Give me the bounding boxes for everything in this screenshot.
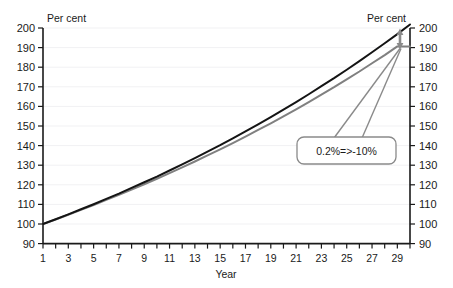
y-axis-left-title: Per cent: [47, 12, 86, 24]
y-label-right-10: 100: [419, 218, 437, 230]
x-tick-label-10: 21: [290, 252, 302, 264]
y-label-left-5: 150: [17, 120, 35, 132]
x-axis-title: Year: [215, 268, 237, 280]
y-label-right-0: 200: [419, 22, 437, 34]
y-label-left-10: 100: [17, 218, 35, 230]
x-tick-label-13: 27: [366, 252, 378, 264]
x-tick-label-3: 7: [116, 252, 122, 264]
x-tick-label-8: 17: [240, 252, 252, 264]
y-label-right-2: 180: [419, 61, 437, 73]
y-label-right-7: 130: [419, 159, 437, 171]
growth-line-chart: 200 190 180 170 160 150 140 130 120 110 …: [0, 0, 453, 288]
y-label-right-8: 120: [419, 179, 437, 191]
x-tick-label-11: 23: [316, 252, 328, 264]
y-label-left-1: 190: [17, 42, 35, 54]
x-tick-label-12: 25: [341, 252, 353, 264]
y-label-right-5: 150: [419, 120, 437, 132]
callout-box: 0.2%=>-10%: [297, 137, 396, 164]
y-label-left-7: 130: [17, 159, 35, 171]
y-label-left-11: 90: [23, 238, 35, 250]
y-label-left-2: 180: [17, 61, 35, 73]
y-axis-right-title: Per cent: [367, 12, 406, 24]
y-label-left-0: 200: [17, 22, 35, 34]
y-label-left-3: 170: [17, 81, 35, 93]
y-label-right-1: 190: [419, 42, 437, 54]
x-tick-label-7: 15: [214, 252, 226, 264]
x-tick-label-9: 19: [265, 252, 277, 264]
y-label-left-9: 110: [17, 198, 35, 210]
x-tick-label-1: 3: [65, 252, 71, 264]
y-label-right-11: 90: [419, 238, 431, 250]
y-label-right-9: 110: [419, 198, 437, 210]
x-axis-labels: 1357911131517192123252729: [40, 252, 403, 264]
y-label-right-4: 160: [419, 100, 437, 112]
x-tick-label-14: 29: [392, 252, 404, 264]
callout-label: 0.2%=>-10%: [316, 145, 377, 157]
x-tick-label-2: 5: [91, 252, 97, 264]
x-tick-label-0: 1: [40, 252, 46, 264]
y-label-right-6: 140: [419, 140, 437, 152]
y-label-right-3: 170: [419, 81, 437, 93]
y-label-left-4: 160: [17, 100, 35, 112]
x-tick-label-6: 13: [189, 252, 201, 264]
x-tick-label-5: 11: [164, 252, 175, 264]
x-tick-label-4: 9: [141, 252, 147, 264]
y-label-left-8: 120: [17, 179, 35, 191]
chart-container: 200 190 180 170 160 150 140 130 120 110 …: [0, 0, 453, 288]
y-label-left-6: 140: [17, 140, 35, 152]
